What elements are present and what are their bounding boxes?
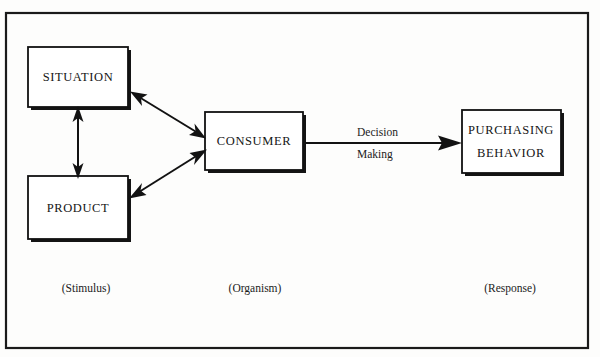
node-situation: SITUATION: [28, 47, 131, 110]
node-purchasing-behavior: PURCHASING BEHAVIOR: [462, 110, 564, 176]
edge-situation-product: [73, 106, 84, 179]
diagram-canvas: SITUATION PRODUCT CONSUMER PURCHASING BE…: [0, 0, 600, 357]
arrowhead-downleft-icon: [129, 183, 147, 199]
edge-product-consumer: [129, 150, 207, 199]
node-consumer: CONSUMER: [205, 112, 306, 173]
product-consumer-line: [139, 155, 198, 192]
consumer-label: CONSUMER: [217, 134, 291, 148]
purchasing-box: [462, 110, 561, 173]
node-product: PRODUCT: [28, 176, 131, 242]
purchasing-label-line2: BEHAVIOR: [477, 146, 545, 160]
arrowhead-upleft-icon: [130, 92, 148, 107]
diagram-svg: SITUATION PRODUCT CONSUMER PURCHASING BE…: [0, 0, 600, 357]
situation-label: SITUATION: [43, 70, 114, 84]
zone-label-organism: (Organism): [229, 282, 282, 295]
edge-situation-consumer: [130, 92, 206, 139]
product-label: PRODUCT: [47, 201, 110, 215]
edge-consumer-purchasing: Decision Making: [305, 126, 462, 161]
zone-label-stimulus: (Stimulus): [62, 282, 111, 295]
situation-consumer-line: [139, 97, 198, 133]
decision-making-label-line2: Making: [357, 148, 393, 161]
zone-label-response: (Response): [484, 282, 536, 295]
arrowhead-downright-icon: [189, 124, 206, 139]
purchasing-label-line1: PURCHASING: [468, 123, 554, 137]
decision-making-label-line1: Decision: [357, 126, 398, 138]
